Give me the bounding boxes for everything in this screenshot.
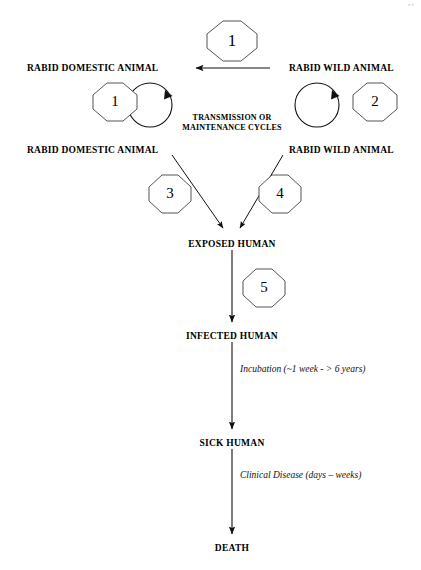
node-rabid-wild-animal-lower: RABID WILD ANIMAL xyxy=(289,145,394,156)
node-rabid-domestic-animal-top: RABID DOMESTIC ANIMAL xyxy=(27,63,158,74)
wild-maintenance-cycle xyxy=(295,83,339,127)
node-rabid-wild-animal-top: RABID WILD ANIMAL xyxy=(289,63,394,74)
arrow-wild-to-exposed-human xyxy=(240,155,283,228)
arrow-domestic-to-exposed-human xyxy=(172,155,223,228)
cycle-caption-line-1: TRANSMISSION OR xyxy=(182,113,281,123)
incubation-note: Incubation (~1 week - > 6 years) xyxy=(240,364,366,374)
rabies-flow-diagram: ▪▪ RABID DOMESTIC AN xyxy=(0,0,421,570)
domestic-maintenance-cycle xyxy=(128,83,172,127)
node-rabid-domestic-animal-lower: RABID DOMESTIC ANIMAL xyxy=(27,145,158,156)
transmission-cycles-caption: TRANSMISSION OR MAINTENANCE CYCLES xyxy=(182,113,281,133)
node-sick-human: SICK HUMAN xyxy=(199,438,264,449)
cycle-caption-line-2: MAINTENANCE CYCLES xyxy=(182,123,281,133)
diagram-canvas xyxy=(0,0,421,570)
clinical-disease-note: Clinical Disease (days – weeks) xyxy=(240,470,361,480)
node-infected-human: INFECTED HUMAN xyxy=(186,331,278,342)
node-death: DEATH xyxy=(215,543,249,554)
node-exposed-human: EXPOSED HUMAN xyxy=(188,239,275,250)
